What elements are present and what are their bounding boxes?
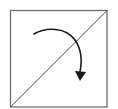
diagonal-line	[11, 11, 108, 108]
arrowhead-icon	[75, 71, 86, 81]
diagram-svg	[0, 0, 118, 109]
rotation-diagram	[0, 0, 118, 109]
clockwise-arrow-arc	[34, 29, 81, 72]
